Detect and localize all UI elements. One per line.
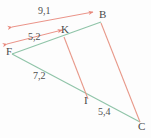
segment-F-to-B xyxy=(12,22,101,54)
segment-F-to-C xyxy=(12,54,140,122)
dimension-arrow-FB xyxy=(12,12,93,27)
measurement-label-FK: 5,2 xyxy=(28,32,41,42)
vertex-label-F: F xyxy=(6,46,12,57)
vertex-label-K: K xyxy=(61,24,69,35)
measurement-label-FB: 9,1 xyxy=(38,6,51,16)
segment-K-to-I xyxy=(64,37,88,99)
geometry-figure-canvas: B K F I C 9,1 5,2 7,2 5,4 xyxy=(0,0,151,138)
vertex-label-C: C xyxy=(138,121,145,132)
vertex-label-B: B xyxy=(99,9,106,20)
measurement-label-FI: 7,2 xyxy=(33,71,46,81)
measurement-label-IC: 5,4 xyxy=(98,107,111,117)
triangle-diagram-svg xyxy=(0,0,151,138)
vertex-label-I: I xyxy=(84,95,88,106)
